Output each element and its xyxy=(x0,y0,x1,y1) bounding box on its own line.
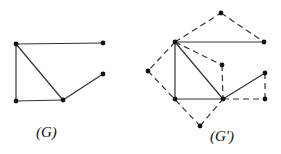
node-e xyxy=(221,97,226,102)
node-c xyxy=(263,71,268,76)
node-b xyxy=(101,41,106,46)
edge-dashed xyxy=(148,42,175,71)
edge-dashed xyxy=(175,13,221,42)
node-p xyxy=(219,11,224,16)
edge-solid xyxy=(223,73,265,99)
node-d xyxy=(14,99,19,104)
edge-dashed xyxy=(200,99,223,126)
node-r xyxy=(146,69,151,74)
node-c xyxy=(101,72,106,77)
edge-dashed xyxy=(221,13,264,42)
node-b xyxy=(262,40,267,45)
node-t xyxy=(198,124,203,129)
node-s xyxy=(263,97,268,102)
edge-solid xyxy=(16,44,63,100)
diagram-canvas: (G) (G') xyxy=(0,0,281,154)
edge-solid xyxy=(63,74,103,100)
edge-dashed xyxy=(222,65,223,99)
graph-g-prime xyxy=(146,11,268,129)
node-a xyxy=(173,40,178,45)
node-a xyxy=(14,42,19,47)
edge-solid xyxy=(16,43,103,44)
edge-solid xyxy=(16,100,63,101)
edge-dashed xyxy=(175,42,222,65)
node-e xyxy=(61,98,66,103)
graph-g-prime-label: (G') xyxy=(210,128,234,145)
graph-g xyxy=(14,41,106,104)
node-d xyxy=(173,97,178,102)
edge-solid xyxy=(175,42,223,99)
graph-g-label: (G) xyxy=(36,124,57,141)
node-q xyxy=(220,63,225,68)
